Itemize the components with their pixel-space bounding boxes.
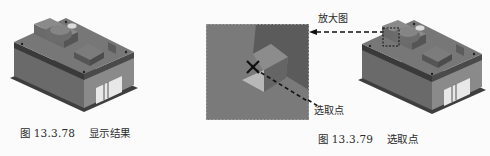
figure-13-3-78-model	[4, 8, 144, 118]
mold-model-icon	[354, 8, 490, 120]
caption-title: 显示结果	[89, 127, 130, 139]
arrowhead-left-icon	[309, 29, 317, 35]
figure-13-3-79-model	[354, 8, 490, 120]
figure-caption-13-3-79: 图 13.3.79选取点	[318, 131, 418, 146]
callout-magnified-view: 放大图	[318, 10, 348, 25]
figure-caption-13-3-78: 图 13.3.78显示结果	[20, 125, 130, 140]
magnified-view-image	[206, 24, 309, 120]
caption-number: 图 13.3.79	[318, 133, 373, 145]
caption-title: 选取点	[387, 133, 418, 145]
caption-number: 图 13.3.78	[20, 127, 75, 139]
callout-selected-point: 选取点	[314, 102, 344, 117]
mold-model-icon	[4, 8, 144, 118]
magnified-view-panel	[206, 24, 309, 120]
